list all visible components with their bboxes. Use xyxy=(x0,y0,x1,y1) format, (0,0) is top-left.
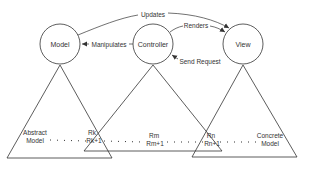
renders-arrow xyxy=(210,26,225,32)
renders-line-left xyxy=(170,26,183,32)
dotted-line-abstract-rk xyxy=(50,140,86,141)
mvc-diagram: Model Controller View Updates Renders Ma… xyxy=(0,0,310,169)
concrete-label-1: Concrete xyxy=(257,132,284,139)
abstract-label-2: Model xyxy=(26,137,44,144)
rm1-label: Rm+1 xyxy=(146,140,164,147)
rm-label: Rm xyxy=(149,132,159,139)
send-request-arrow xyxy=(172,55,178,59)
rk-label: Rk xyxy=(88,129,97,136)
controller-label: Controller xyxy=(138,41,169,48)
model-label: Model xyxy=(50,41,70,48)
abstract-label-1: Abstract xyxy=(23,129,47,136)
diagram-svg: Model Controller View Updates Renders Ma… xyxy=(0,0,310,169)
updates-label: Updates xyxy=(141,11,166,19)
rk1-label: Rk+1 xyxy=(86,137,102,144)
rn1-label: Rn+1 xyxy=(204,140,220,147)
send-request-label: Send Request xyxy=(179,58,220,66)
view-label: View xyxy=(235,41,251,48)
rn-label: Rn xyxy=(207,132,216,139)
concrete-label-2: Model xyxy=(261,140,279,147)
manipulates-label: Manipulates xyxy=(91,41,127,49)
updates-arrow xyxy=(78,15,138,35)
renders-label: Renders xyxy=(184,22,209,29)
